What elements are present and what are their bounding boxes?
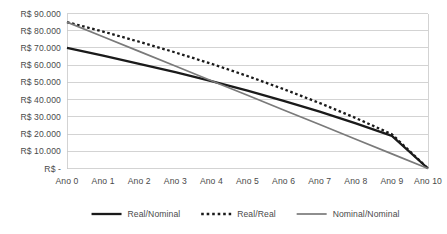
x-tick-label: Ano 7 [308,176,331,186]
x-tick-label: Ano 2 [128,176,151,186]
x-tick-label: Ano 5 [236,176,259,186]
x-tick-label: Ano 0 [56,176,79,186]
x-tick-label: Ano 4 [200,176,223,186]
legend-item-label: Real/Real [237,209,276,219]
x-tick-label: Ano 6 [272,176,295,186]
line-chart: R$ -R$ 10.000R$ 20.000R$ 30.000R$ 40.000… [0,0,447,234]
x-tick-label: Ano 9 [380,176,403,186]
y-tick-label: R$ 30.000 [20,112,61,122]
x-tick-label: Ano 3 [164,176,187,186]
y-tick-label: R$ 60.000 [20,60,61,70]
x-tick-label: Ano 1 [92,176,115,186]
x-tick-label: Ano 8 [344,176,367,186]
y-tick-label: R$ - [44,164,61,174]
y-tick-label: R$ 90.000 [20,9,61,19]
y-tick-label: R$ 10.000 [20,146,61,156]
y-tick-label: R$ 20.000 [20,129,61,139]
x-tick-label: Ano 10 [414,176,442,186]
y-tick-label: R$ 70.000 [20,43,61,53]
y-tick-label: R$ 40.000 [20,95,61,105]
chart-legend: Real/NominalReal/RealNominal/Nominal [92,209,400,219]
legend-item-label: Real/Nominal [128,209,181,219]
y-tick-label: R$ 80.000 [20,26,61,36]
legend-item-label: Nominal/Nominal [333,209,400,219]
x-axis-tick-labels: Ano 0Ano 1Ano 2Ano 3Ano 4Ano 5Ano 6Ano 7… [56,176,443,186]
y-tick-label: R$ 50.000 [20,77,61,87]
chart-container: R$ -R$ 10.000R$ 20.000R$ 30.000R$ 40.000… [0,0,447,234]
